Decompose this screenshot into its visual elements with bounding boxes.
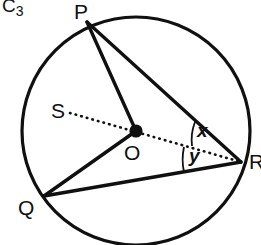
angle-label-x: x xyxy=(197,121,208,140)
segment-QR xyxy=(44,162,241,196)
angle-label-y: y xyxy=(189,146,200,165)
segment-PO xyxy=(87,22,136,131)
point-label-Q: Q xyxy=(18,197,34,218)
geometry-diagram: C3 P S O Q R x y xyxy=(0,0,261,245)
point-label-S: S xyxy=(51,100,65,121)
figure-caption-subscript: 3 xyxy=(16,3,24,19)
figure-caption-name: C xyxy=(2,0,16,16)
angle-arc-y xyxy=(183,147,184,172)
angle-arc-x xyxy=(192,122,195,146)
figure-caption: C3 xyxy=(2,0,24,18)
point-label-O: O xyxy=(124,142,140,163)
segment-OQ xyxy=(44,131,136,196)
point-label-R: R xyxy=(249,151,261,172)
circle-geometry-drawing xyxy=(0,0,261,245)
center-point-dot xyxy=(129,124,142,137)
point-label-P: P xyxy=(74,1,88,22)
